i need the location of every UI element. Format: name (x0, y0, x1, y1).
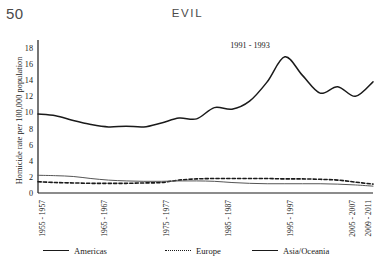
legend-item-europe: Europe (165, 246, 221, 256)
series-line-asia-oceania (38, 175, 373, 186)
running-head: 50 EVIL (0, 0, 375, 30)
x-tick-6: 2009 - 2011 (364, 200, 373, 237)
chart-axes (38, 40, 373, 193)
data-series-group (38, 57, 373, 186)
legend-label-americas: Americas (74, 246, 107, 256)
legend-item-americas: Americas (43, 246, 107, 256)
y-tick-0: 0 (29, 189, 33, 198)
peak-annotation-0: 1991 - 1993 (230, 41, 270, 50)
y-tick-12: 12 (25, 92, 33, 101)
chart-legend: Americas Europe Asia/Oceania (0, 246, 375, 266)
line-chart-plot: 024681012141618 1955 - 19571965 - 196719… (0, 30, 375, 250)
y-tick-16: 16 (25, 60, 33, 69)
chart-annotations: 1991 - 1993 (230, 41, 270, 50)
y-tick-14: 14 (25, 76, 33, 85)
x-axis-tick-labels: 1955 - 19571965 - 19671975 - 19771985 - … (38, 200, 374, 237)
y-axis-tick-labels: 024681012141618 (25, 44, 33, 198)
y-tick-10: 10 (25, 108, 33, 117)
running-title: EVIL (0, 7, 375, 19)
legend-label-europe: Europe (196, 246, 221, 256)
x-tick-1: 1965 - 1967 (100, 200, 109, 237)
legend-line-icon-americas (43, 247, 69, 255)
y-tick-18: 18 (25, 44, 33, 53)
legend-label-asia-oceania: Asia/Oceania (283, 246, 329, 256)
legend-line-icon-europe (165, 247, 191, 255)
series-line-americas (38, 57, 373, 127)
x-tick-3: 1985 - 1987 (224, 200, 233, 237)
book-page: 50 EVIL Homicide rate per 100,000 popula… (0, 0, 375, 274)
x-tick-4: 1995 - 1997 (286, 200, 295, 237)
y-tick-4: 4 (29, 157, 33, 166)
x-tick-2: 1975 - 1977 (162, 200, 171, 237)
figure-homicide-rate-chart: Homicide rate per 100,000 population 024… (0, 30, 375, 274)
x-tick-0: 1955 - 1957 (38, 200, 47, 237)
legend-line-icon-asia-oceania (252, 247, 278, 255)
legend-item-asia-oceania: Asia/Oceania (252, 246, 329, 256)
x-tick-5: 2005 - 2007 (348, 200, 357, 237)
y-tick-8: 8 (29, 125, 33, 134)
y-tick-2: 2 (29, 173, 33, 182)
y-tick-6: 6 (29, 141, 33, 150)
